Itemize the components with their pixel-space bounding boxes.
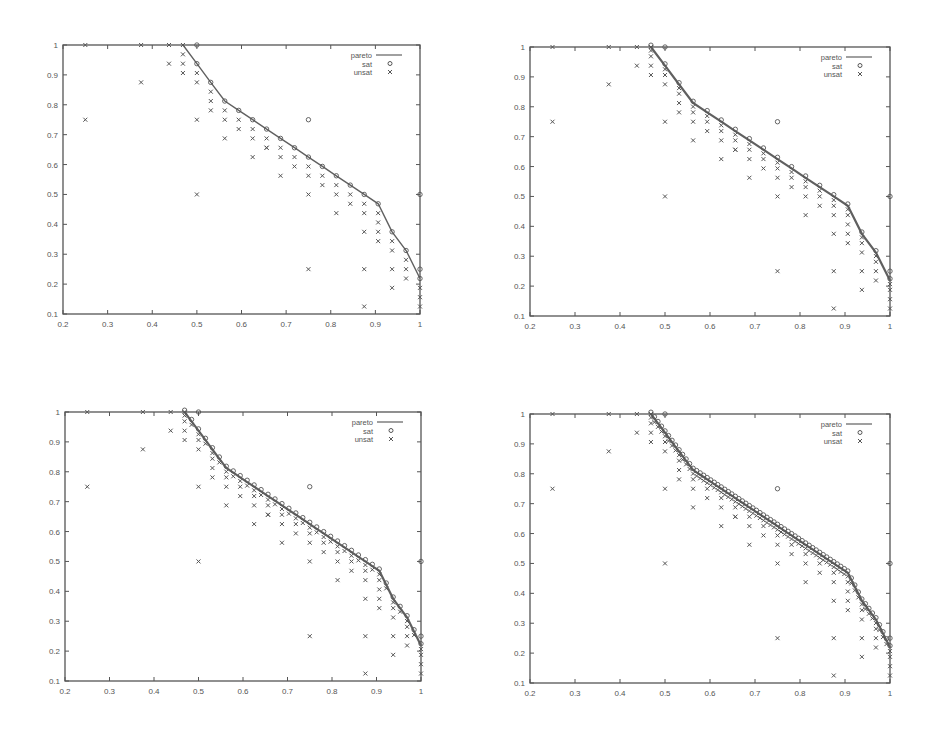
x-tick-label: 0.7 (282, 687, 294, 696)
series-pareto (183, 45, 420, 279)
y-tick-label: 0.6 (47, 161, 59, 170)
chart-top-left: 0.20.30.40.50.60.70.80.910.10.20.30.40.5… (47, 41, 423, 329)
chart-bottom-right: 0.20.30.40.50.60.70.80.910.10.20.30.40.5… (514, 410, 893, 698)
y-tick-label: 0.2 (514, 649, 526, 658)
x-tick-label: 0.2 (57, 320, 69, 329)
legend: paretosatunsat (821, 420, 872, 446)
x-tick-label: 0.5 (193, 687, 205, 696)
x-tick-label: 0.9 (839, 689, 851, 698)
y-tick-label: 0.1 (514, 312, 526, 321)
x-tick-label: 1 (418, 320, 423, 329)
series-pareto (651, 414, 890, 648)
y-tick-label: 0.6 (514, 163, 526, 172)
y-tick-label: 1 (521, 43, 526, 52)
series-unsat (551, 45, 893, 311)
x-tick-label: 0.9 (839, 322, 851, 331)
x-tick-label: 0.3 (104, 687, 116, 696)
y-tick-label: 0.6 (514, 530, 526, 539)
y-tick-label: 0.3 (49, 617, 61, 626)
legend-label-unsat: unsat (354, 68, 373, 77)
x-tick-label: 0.6 (704, 322, 716, 331)
x-tick-label: 0.2 (59, 687, 71, 696)
y-tick-label: 0.4 (514, 589, 526, 598)
x-tick-label: 0.4 (614, 322, 626, 331)
y-tick-label: 0.5 (514, 559, 526, 568)
x-tick-label: 0.5 (659, 322, 671, 331)
x-tick-label: 0.4 (147, 320, 159, 329)
y-tick-label: 1 (521, 410, 526, 419)
y-tick-label: 0.9 (49, 438, 61, 447)
x-tick-label: 1 (888, 322, 893, 331)
series-sat (195, 43, 423, 281)
y-tick-label: 0.1 (47, 310, 59, 319)
series-sat (649, 43, 892, 281)
x-tick-label: 0.6 (704, 689, 716, 698)
chart-bottom-left: 0.20.30.40.50.60.70.80.910.10.20.30.40.5… (49, 408, 424, 696)
x-tick-label: 0.6 (236, 320, 248, 329)
x-tick-label: 0.7 (749, 689, 761, 698)
y-tick-label: 0.3 (514, 252, 526, 261)
y-tick-label: 0.7 (514, 500, 526, 509)
legend: paretosatunsat (351, 51, 402, 77)
y-tick-label: 0.2 (514, 282, 526, 291)
plot-frame (530, 414, 890, 683)
series-sat (649, 410, 892, 648)
x-tick-label: 0.3 (569, 322, 581, 331)
x-tick-label: 0.7 (281, 320, 293, 329)
y-tick-label: 0.4 (514, 222, 526, 231)
plot-frame (63, 45, 420, 314)
x-tick-label: 0.2 (524, 689, 536, 698)
legend-label-unsat: unsat (355, 435, 374, 444)
x-tick-label: 0.8 (794, 689, 806, 698)
x-tick-label: 0.3 (569, 689, 581, 698)
y-tick-label: 0.9 (514, 440, 526, 449)
plot-frame (530, 47, 890, 316)
y-tick-label: 1 (56, 408, 61, 417)
x-tick-label: 0.8 (794, 322, 806, 331)
x-tick-label: 0.7 (749, 322, 761, 331)
y-tick-label: 0.7 (514, 133, 526, 142)
y-tick-label: 0.2 (47, 280, 59, 289)
y-tick-label: 0.4 (49, 587, 61, 596)
y-tick-label: 0.8 (514, 470, 526, 479)
y-tick-label: 0.8 (47, 101, 59, 110)
plot-frame (65, 412, 421, 681)
y-tick-label: 0.7 (47, 131, 59, 140)
x-tick-label: 1 (888, 689, 893, 698)
y-tick-label: 0.5 (514, 192, 526, 201)
figure-canvas: 0.20.30.40.50.60.70.80.910.10.20.30.40.5… (0, 0, 942, 734)
x-tick-label: 0.2 (524, 322, 536, 331)
legend-label-unsat: unsat (824, 437, 843, 446)
y-tick-label: 0.3 (514, 619, 526, 628)
y-tick-label: 0.7 (49, 498, 61, 507)
legend: paretosatunsat (821, 53, 872, 79)
legend: paretosatunsat (352, 418, 403, 444)
x-tick-label: 0.9 (370, 320, 382, 329)
y-tick-label: 0.5 (47, 190, 59, 199)
y-tick-label: 0.1 (49, 677, 61, 686)
y-tick-label: 1 (54, 41, 59, 50)
x-tick-label: 0.4 (148, 687, 160, 696)
x-tick-label: 0.3 (102, 320, 114, 329)
y-tick-label: 0.8 (49, 468, 61, 477)
y-tick-label: 0.4 (47, 220, 59, 229)
x-tick-label: 0.4 (614, 689, 626, 698)
y-tick-label: 0.6 (49, 528, 61, 537)
y-tick-label: 0.9 (47, 71, 59, 80)
series-pareto (651, 47, 890, 281)
x-tick-label: 0.6 (237, 687, 249, 696)
series-unsat (85, 410, 423, 676)
y-tick-label: 0.8 (514, 103, 526, 112)
y-tick-label: 0.1 (514, 679, 526, 688)
y-tick-label: 0.9 (514, 73, 526, 82)
x-tick-label: 0.9 (371, 687, 383, 696)
x-tick-label: 0.5 (191, 320, 203, 329)
chart-top-right: 0.20.30.40.50.60.70.80.910.10.20.30.40.5… (514, 43, 893, 331)
series-unsat (83, 43, 422, 309)
legend-label-unsat: unsat (824, 70, 843, 79)
figure: 0.20.30.40.50.60.70.80.910.10.20.30.40.5… (0, 0, 942, 734)
x-tick-label: 0.8 (326, 687, 338, 696)
x-tick-label: 0.5 (659, 689, 671, 698)
y-tick-label: 0.5 (49, 557, 61, 566)
series-sat (182, 408, 423, 646)
